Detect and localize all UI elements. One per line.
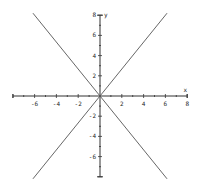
x-tick-label: -4 <box>53 100 61 107</box>
x-axis-label: x <box>183 86 187 93</box>
x-tick-label: 4 <box>142 100 146 107</box>
line-chart: -6-4-224688642-2-4-6xy <box>0 0 201 191</box>
x-tick-label: 2 <box>120 100 124 107</box>
x-tick-label: 8 <box>185 100 189 107</box>
y-tick-label: -4 <box>89 132 97 139</box>
y-tick-label: 4 <box>92 52 96 59</box>
y-axis-label: y <box>104 11 108 19</box>
x-tick-label: -6 <box>31 100 39 107</box>
y-tick-label: 2 <box>92 72 96 79</box>
x-tick-label: 6 <box>164 100 168 107</box>
y-tick-label: -6 <box>89 153 97 160</box>
y-tick-label: 8 <box>92 11 96 18</box>
y-tick-label: -2 <box>89 112 97 119</box>
x-tick-label: -2 <box>75 100 83 107</box>
y-tick-label: 6 <box>92 31 96 38</box>
